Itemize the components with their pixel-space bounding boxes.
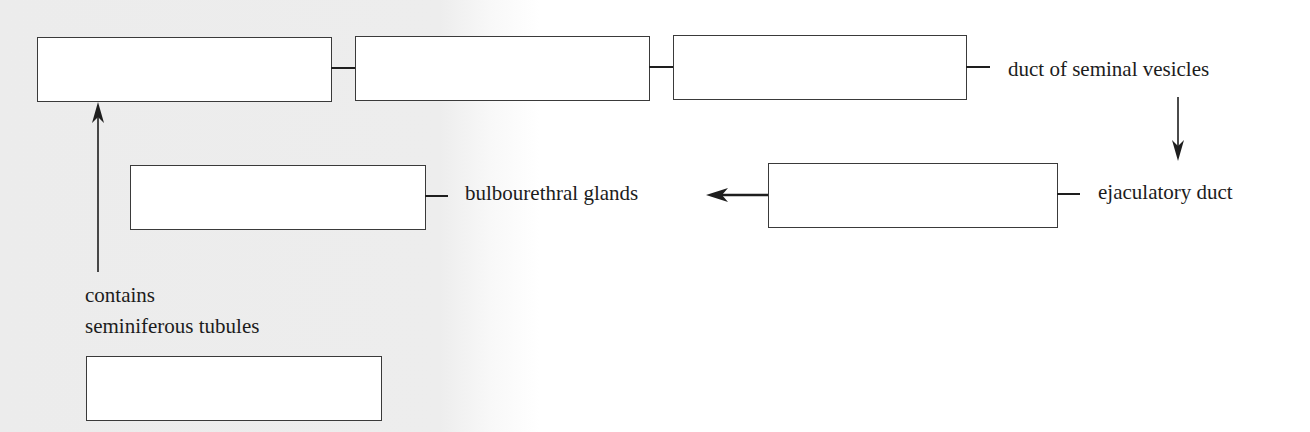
label-ejaculatory-duct: ejaculatory duct [1098, 179, 1233, 205]
arrow-left-icon [706, 188, 768, 202]
label-bulbourethral-glands: bulbourethral glands [465, 180, 638, 206]
answer-box-3[interactable] [673, 35, 967, 100]
answer-box-4[interactable] [130, 165, 426, 230]
label-duct-of-seminal-vesicles: duct of seminal vesicles [1008, 56, 1209, 82]
answer-box-2[interactable] [355, 36, 650, 101]
arrow-down-icon [1172, 97, 1184, 161]
answer-box-5[interactable] [768, 163, 1058, 228]
connector-box5-label [1057, 193, 1080, 195]
connector-box2-box3 [649, 66, 674, 68]
connector-box1-box2 [331, 67, 356, 69]
label-contains-seminiferous-tubules: contains seminiferous tubules [85, 280, 259, 342]
answer-box-1[interactable] [37, 37, 332, 102]
label-contains-line2: seminiferous tubules [85, 311, 259, 342]
label-contains-line1: contains [85, 280, 259, 311]
connector-box3-label [966, 66, 990, 68]
arrow-up-icon [92, 102, 104, 272]
answer-box-6[interactable] [86, 356, 382, 421]
connector-box4-label [425, 195, 448, 197]
